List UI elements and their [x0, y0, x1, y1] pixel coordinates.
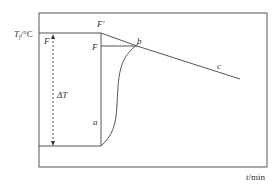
fprime-b-line: [101, 33, 137, 46]
label-f-prime: F′: [96, 19, 105, 29]
temperature-time-diagram: Tf/°C F F′ F b c a ΔT t/min: [0, 0, 280, 189]
label-delta-t: ΔT: [56, 90, 68, 100]
plot-frame: [39, 13, 267, 167]
label-a: a: [93, 117, 98, 127]
cooling-line-bc: [137, 46, 240, 79]
x-axis-label: t/min: [246, 172, 266, 182]
temperature-curve-ab: [101, 43, 139, 146]
label-c: c: [217, 61, 221, 71]
label-f: F: [91, 42, 98, 52]
arrow-down-icon: [51, 141, 55, 146]
label-f-left: F: [43, 36, 50, 46]
y-axis-label: Tf/°C: [14, 29, 33, 40]
label-b: b: [137, 36, 142, 46]
arrow-up-icon: [51, 34, 55, 39]
